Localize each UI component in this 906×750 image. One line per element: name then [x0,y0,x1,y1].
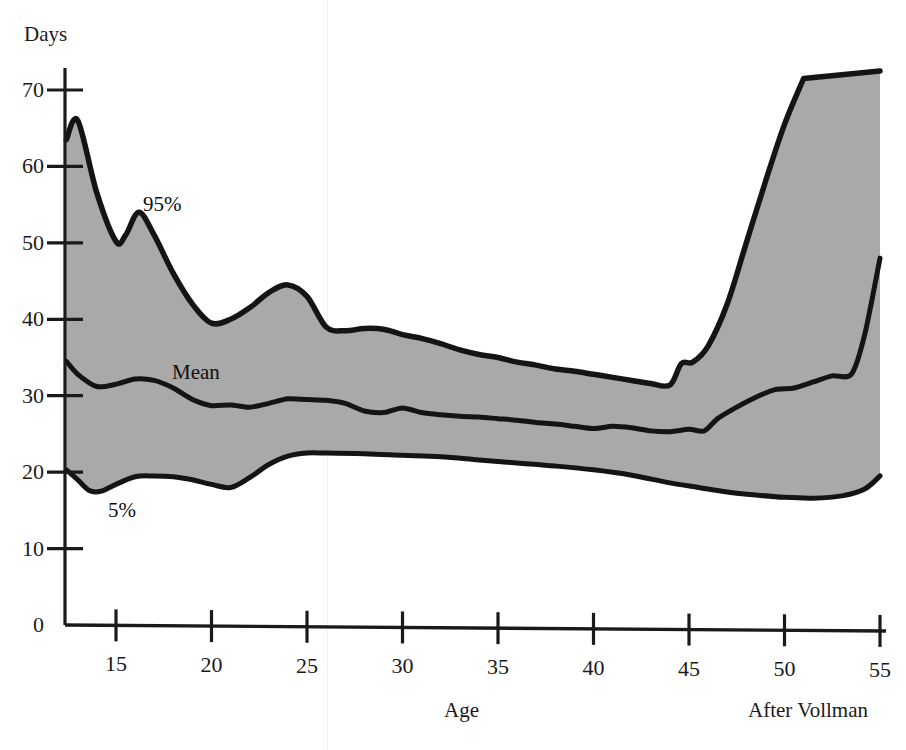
y-tick-label: 10 [0,536,44,562]
y-tick-label: 70 [0,77,44,103]
y-tick-label: 20 [0,459,44,485]
x-ticks [116,609,880,647]
x-tick-label: 45 [659,656,719,682]
y-tick-label: 30 [0,383,44,409]
source-attribution: After Vollman [748,698,868,723]
x-tick-label: 50 [755,656,815,682]
series-label-mean: Mean [172,360,220,385]
x-tick-label: 35 [468,654,528,680]
x-axis-title: Age [444,698,479,723]
chart-figure: Days Age After Vollman 95% Mean 5% 01020… [0,0,906,750]
x-axis-line [65,625,886,631]
y-tick-label: 60 [0,153,44,179]
y-tick-label: 50 [0,230,44,256]
x-tick-label: 15 [86,651,146,677]
x-tick-label: 30 [373,653,433,679]
series-label-lower: 5% [108,498,136,523]
x-tick-label: 40 [564,655,624,681]
x-tick-label: 25 [277,653,337,679]
y-axis-title: Days [24,22,67,47]
x-tick-label: 55 [850,657,906,683]
series-label-upper: 95% [143,192,182,217]
y-tick-label: 0 [0,612,44,638]
plot-canvas [0,0,906,750]
x-tick-label: 20 [182,652,242,678]
y-tick-label: 40 [0,306,44,332]
confidence-band-fill [66,71,880,498]
